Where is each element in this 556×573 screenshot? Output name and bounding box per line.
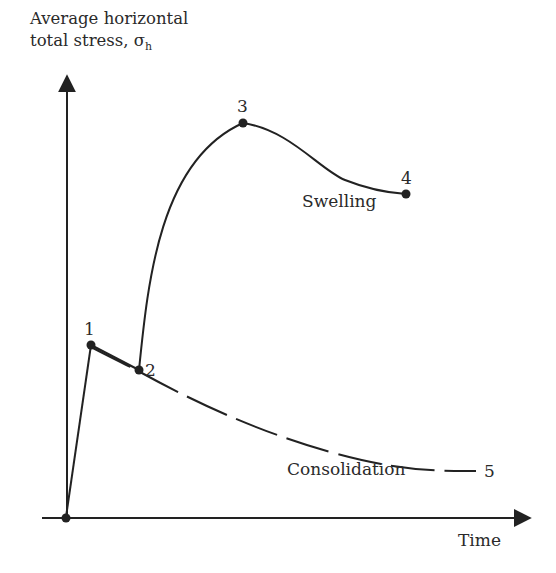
point-1-marker (87, 341, 96, 350)
sigma-symbol: σ (134, 31, 145, 50)
sigma-subscript: h (145, 40, 152, 53)
origin-point (62, 514, 71, 523)
segment-1-2 (91, 345, 139, 370)
stress-time-diagram (0, 0, 556, 573)
point-4-marker (402, 190, 411, 199)
x-axis-label: Time (458, 530, 501, 550)
point-3-marker (239, 119, 248, 128)
swelling-curve (139, 123, 406, 370)
point-1-label: 1 (84, 319, 95, 339)
y-axis-label-line2: total stress, σh (30, 30, 188, 58)
point-3-label: 3 (237, 96, 248, 116)
point-4-label: 4 (401, 168, 412, 188)
loading-line (66, 345, 91, 517)
swelling-label: Swelling (302, 191, 376, 211)
point-2-marker (135, 366, 144, 375)
consolidation-label: Consolidation (287, 459, 406, 479)
y-axis-label-line1: Average horizontal (30, 8, 188, 30)
point-2-label: 2 (145, 360, 156, 380)
y-axis-label: Average horizontal total stress, σh (30, 8, 188, 58)
point-5-label: 5 (484, 461, 495, 481)
